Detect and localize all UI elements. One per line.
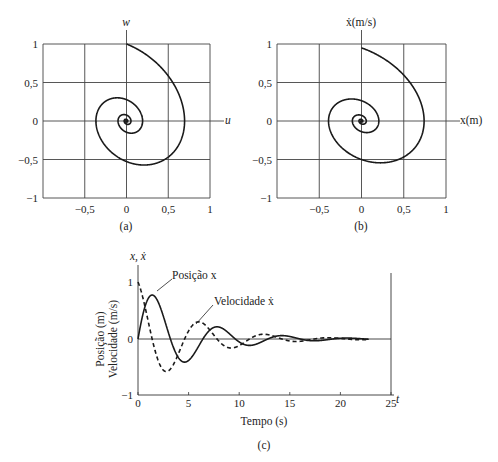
phase-plot-b: −0,500,5110,50−0,5−1 ẋ(m/s) x(m) (b) — [252, 16, 482, 233]
svg-text:0: 0 — [359, 203, 365, 215]
svg-text:1: 1 — [128, 276, 134, 288]
figure: −0,500,5110,50−0,5−1 w u (a) −0,500,5110… — [0, 0, 498, 462]
caption-b: (b) — [354, 220, 368, 233]
svg-text:−0,5: −0,5 — [309, 203, 329, 215]
svg-text:−1: −1 — [260, 192, 272, 204]
grid-b — [277, 30, 460, 198]
svg-text:0: 0 — [124, 203, 130, 215]
svg-text:1: 1 — [267, 38, 273, 50]
t-label-c: t — [396, 393, 400, 405]
ticks-b: −0,500,5110,50−0,5−1 — [252, 38, 449, 215]
annotation-leader-velocity — [196, 305, 213, 324]
svg-text:−0,5: −0,5 — [252, 154, 272, 166]
svg-text:0,5: 0,5 — [161, 203, 175, 215]
ytop-label-c: x, ẋ — [129, 250, 147, 263]
svg-text:0: 0 — [267, 115, 273, 127]
svg-text:20: 20 — [335, 397, 347, 409]
annotation-velocity: Velocidade ẋ — [214, 295, 274, 307]
svg-text:15: 15 — [284, 397, 296, 409]
svg-text:−0,5: −0,5 — [18, 154, 38, 166]
xlabel-b: x(m) — [460, 114, 483, 127]
ylabel-c-line1: Posição (m) — [94, 311, 107, 366]
svg-text:5: 5 — [186, 397, 192, 409]
ylabel-c-line2: Velocidade (m/s) — [107, 300, 120, 378]
time-plot-c: 051015202510−1 x, ẋ t Tempo (s) Posição … — [94, 250, 400, 452]
annotation-position: Posição x — [172, 269, 217, 282]
svg-text:10: 10 — [234, 397, 246, 409]
svg-text:0: 0 — [135, 397, 141, 409]
caption-a: (a) — [120, 220, 133, 233]
xlabel-a: u — [225, 114, 231, 126]
svg-text:−0,5: −0,5 — [75, 203, 95, 215]
svg-text:1: 1 — [33, 38, 39, 50]
axes-c — [138, 265, 394, 395]
svg-text:1: 1 — [207, 203, 213, 215]
trajectory-b — [329, 48, 425, 163]
phase-plot-a: −0,500,5110,50−0,5−1 w u (a) — [18, 16, 231, 233]
caption-c: (c) — [258, 439, 271, 452]
svg-text:0: 0 — [128, 333, 134, 345]
trajectory-a — [96, 44, 185, 165]
svg-text:0,5: 0,5 — [258, 77, 272, 89]
svg-text:0: 0 — [33, 115, 39, 127]
ylabel-b: ẋ(m/s) — [346, 16, 376, 29]
svg-text:−1: −1 — [121, 389, 133, 401]
ylabel-a: w — [122, 16, 130, 28]
svg-text:1: 1 — [443, 203, 449, 215]
grid-a — [43, 30, 224, 198]
annotation-leader-position — [157, 279, 172, 291]
xlabel-c: Tempo (s) — [241, 415, 288, 428]
svg-text:−1: −1 — [26, 192, 38, 204]
svg-text:0,5: 0,5 — [397, 203, 411, 215]
svg-text:0,5: 0,5 — [24, 77, 38, 89]
